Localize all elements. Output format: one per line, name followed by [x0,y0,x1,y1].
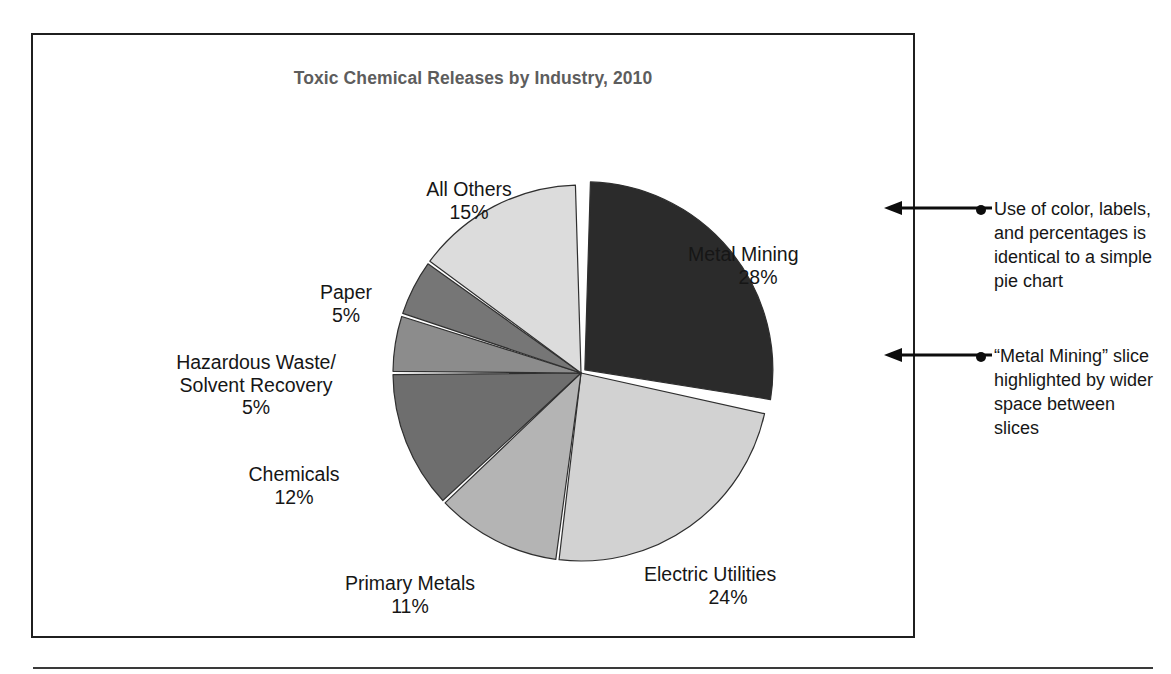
chart-title: Toxic Chemical Releases by Industry, 201… [31,68,915,89]
pie-label-primary-metals: Primary Metals 11% [300,549,520,640]
pie-label-hazardous-waste-name: Hazardous Waste/ Solvent Recovery [176,351,336,396]
pie-label-chemicals-pct: 12% [214,486,374,509]
pie-label-electric-utilities-pct: 24% [644,586,812,609]
pie-label-metal-mining-name: Metal Mining [688,243,799,265]
callout-note-2: “Metal Mining” slice highlighted by wide… [994,345,1159,441]
pie-label-chemicals-name: Chemicals [248,463,339,485]
pie-label-primary-metals-name: Primary Metals [345,572,475,594]
pie-label-paper-name: Paper [320,281,372,303]
pie-label-paper-pct: 5% [286,304,406,327]
callout-note-1-text: Use of color, labels, and percentages is… [994,198,1159,294]
bottom-divider-rule [33,667,1153,669]
callout-note-1: Use of color, labels, and percentages is… [994,198,1159,294]
pie-label-chemicals: Chemicals 12% [214,440,374,531]
pie-label-metal-mining: Metal Mining 28% [688,220,888,311]
callout-note-2-text: “Metal Mining” slice highlighted by wide… [994,345,1159,441]
pie-label-hazardous-waste: Hazardous Waste/ Solvent Recovery 5% [146,328,366,442]
pie-label-all-others: All Others 15% [384,155,554,246]
pie-label-electric-utilities: Electric Utilities 24% [644,540,874,631]
bullet-icon [976,352,986,362]
pie-label-primary-metals-pct: 11% [300,595,520,618]
pie-label-hazardous-waste-pct: 5% [146,396,366,419]
bullet-icon [976,205,986,215]
pie-label-all-others-pct: 15% [384,201,554,224]
pie-label-all-others-name: All Others [426,178,512,200]
pie-label-electric-utilities-name: Electric Utilities [644,563,776,585]
pie-slice [559,373,764,561]
pie-label-metal-mining-pct: 28% [688,266,828,289]
